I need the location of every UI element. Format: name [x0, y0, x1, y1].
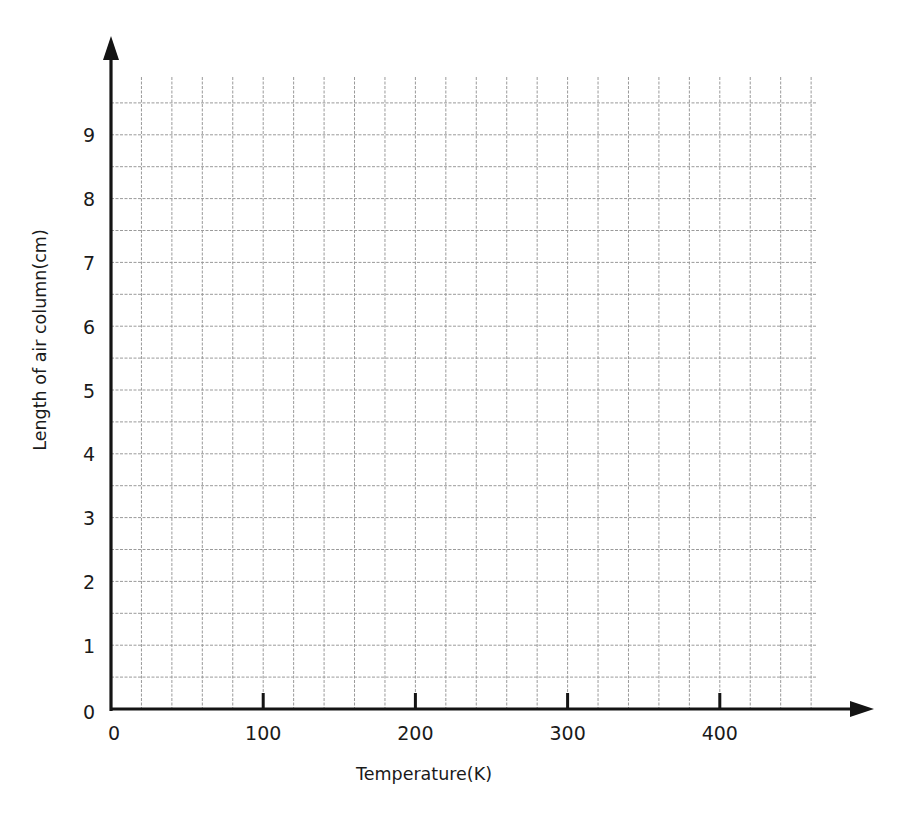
y-axis-arrow-icon: [103, 36, 119, 60]
y-tick-label: 7: [83, 252, 95, 274]
x-tick-label: 300: [549, 722, 585, 744]
x-tick-marks: [263, 693, 720, 709]
chart: 0100200300400 0123456789 Temperature(K) …: [0, 0, 900, 813]
x-tick-labels: 0100200300400: [108, 722, 738, 744]
y-tick-label: 6: [83, 316, 95, 338]
x-tick-label: 0: [108, 722, 120, 744]
y-axis-title: Length of air column(cm): [30, 229, 50, 450]
y-tick-label: 2: [83, 571, 95, 593]
y-tick-label: 3: [83, 507, 95, 529]
y-tick-label: 9: [83, 124, 95, 146]
y-tick-label: 8: [83, 188, 95, 210]
y-tick-label: 5: [83, 380, 95, 402]
y-tick-label: 4: [83, 443, 95, 465]
x-tick-label: 200: [397, 722, 433, 744]
axes: [103, 36, 874, 717]
y-tick-labels: 0123456789: [83, 124, 95, 722]
grid: [111, 77, 817, 709]
y-tick-label: 1: [83, 635, 95, 657]
x-axis-arrow-icon: [850, 701, 874, 717]
x-tick-label: 400: [702, 722, 738, 744]
x-axis-title: Temperature(K): [355, 764, 492, 784]
y-tick-label: 0: [83, 701, 95, 723]
x-tick-label: 100: [245, 722, 281, 744]
